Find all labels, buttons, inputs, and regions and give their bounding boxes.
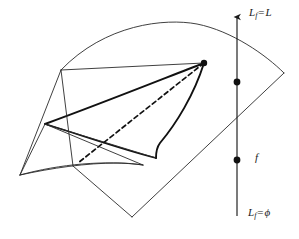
label-bottom-equals: =: [256, 206, 264, 218]
figure-canvas: [0, 0, 299, 239]
label-middle-text: f: [255, 151, 258, 163]
axis-node-upper-dot: [234, 79, 241, 86]
fibration-axis: [234, 17, 241, 216]
surface-bottom-v-left: [73, 166, 132, 217]
label-top-value: L: [266, 6, 272, 18]
label-bottom-fiber: Lf=ϕ: [248, 207, 270, 220]
surface-bottom-v-right: [132, 73, 284, 217]
cone-ruling-to-bottom: [45, 124, 143, 165]
axis-node-lower-dot: [234, 157, 241, 164]
cone-ruling-apex-far-left: [61, 63, 204, 70]
label-top-fiber: Lf=L: [249, 7, 272, 20]
cone-right-edge: [156, 63, 204, 158]
label-bottom-value: ϕ: [265, 206, 271, 218]
cone-fin: [20, 63, 204, 175]
math-figure: Lf=L f Lf=ϕ: [0, 0, 299, 239]
cone-apex-dot: [201, 60, 207, 66]
cone-ruling-left-lower: [20, 124, 45, 175]
surface-left-edge: [20, 70, 61, 175]
cone-dashed-ruling: [78, 63, 204, 163]
surface-top-edge: [61, 22, 284, 73]
cone-chord-thin: [45, 124, 156, 158]
label-middle-f: f: [255, 152, 258, 163]
label-top-equals: =: [257, 6, 265, 18]
